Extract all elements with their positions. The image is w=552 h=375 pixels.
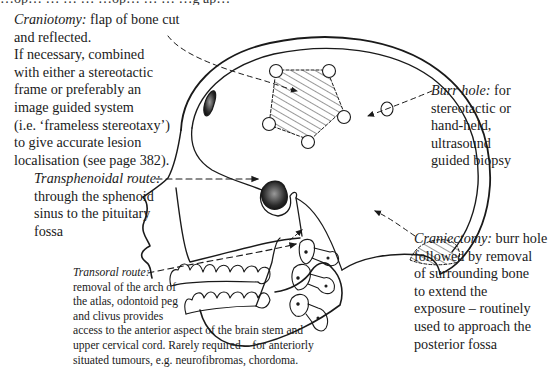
label-burr-hole: Burr hole: for stereotactic or hand-held… [431,82,551,170]
transoral-term: Transoral route: [73,266,150,279]
sphenoid-sinus [261,181,287,209]
craniotomy-term: Craniotomy: [14,11,87,27]
craniectomy-line: burr hole [496,230,548,246]
label-transoral: Transoral route: removal of the arch of … [73,266,363,368]
craniotomy-line: and reflected. [14,29,204,47]
transoral-line: and clivus provides [73,310,363,325]
craniotomy-line: (i.e. ‘frameless stereotaxy’) [14,117,204,135]
craniectomy-line: followed by removal [414,248,552,266]
craniotomy-line: If necessary, combined [14,46,204,64]
burr-hole-term: Burr hole: [431,82,491,98]
burr-hole-line: stereotactic or [431,100,551,118]
transoral-line: situated tumours, e.g. neurofibromas, ch… [73,354,363,369]
burr-hole-line: ultrasound [431,135,551,153]
burr-hole-line: hand-held, [431,117,551,135]
craniectomy-line: posterior fossa [414,336,552,354]
transoral-line: the atlas, odontoid peg [73,295,363,310]
transoral-line: removal of the arch of [73,281,363,296]
transoral-line: upper cervical cord. Rarely required – f… [73,339,363,354]
craniectomy-leader [375,211,415,236]
transoral-line: access to the anterior aspect of the bra… [73,324,363,339]
craniotomy-line: image guided system [14,99,204,117]
burr-hole-line: guided biopsy [431,152,551,170]
burr-hole-line: for [494,82,511,98]
transphenoidal-line: sinus to the pituitary [34,205,174,223]
craniectomy-line: exposure – routinely [414,300,552,318]
craniectomy-term: Craniectomy: [414,230,492,246]
label-craniotomy: Craniotomy: flap of bone cut and reflect… [14,11,204,169]
craniotomy-line: with either a stereotactic [14,64,204,82]
craniotomy-line: frame or preferably an [14,81,204,99]
transphenoidal-line: through the sphenoid [34,188,174,206]
transphenoidal-line: fossa [34,223,174,241]
page-header-fragment: …op… … … … …op… … … …g ap… [0,0,552,5]
label-transphenoidal: Transphenoidal route: through the spheno… [34,170,174,240]
craniectomy-line: to extend the [414,283,552,301]
burr-hole-leader [368,91,432,116]
craniotomy-line: localisation (see page 382). [14,152,204,170]
label-craniectomy: Craniectomy: burr hole followed by remov… [414,230,552,353]
transphenoidal-term: Transphenoidal route: [34,170,161,186]
craniectomy-line: of surrounding bone [414,265,552,283]
craniotomy-flap [269,70,343,140]
craniectomy-line: used to approach the [414,318,552,336]
craniotomy-line: flap of bone cut [90,11,179,27]
craniotomy-line: to give accurate lesion [14,134,204,152]
